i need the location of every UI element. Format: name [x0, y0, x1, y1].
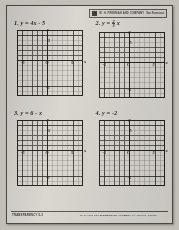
problem-1-x-neg-tick: -5	[21, 60, 25, 65]
problem-1-coordinate-plane: x y O -5 5 5 -5	[13, 27, 88, 105]
footer: TRANSPARENCY 5-3 To be used with ELEMENT…	[7, 211, 172, 220]
problem-4-number: 4.	[96, 109, 101, 116]
problem-3-equation: 3. y = 6 - x	[14, 109, 89, 116]
problem-3-number: 3.	[14, 109, 19, 116]
problem-2-x-neg-tick: -5	[103, 62, 107, 67]
problem-2: 2. y = 2 3 x x y O -5	[93, 19, 171, 107]
problem-3-y-pos-tick: 5	[48, 128, 50, 133]
problem-1-y-neg-tick: -5	[46, 85, 50, 90]
problem-3-equation-text: y = 6 - x	[21, 109, 43, 116]
textbook-credit: To be used with ELEMENTARY ALGEBRA by Ha…	[80, 214, 157, 217]
scanned-page-background: W. H. FREEMAN AND COMPANY San Francisco …	[0, 0, 179, 230]
problem-3-y-axis-label: y	[47, 117, 49, 122]
worksheet-sheet: W. H. FREEMAN AND COMPANY San Francisco …	[6, 5, 173, 224]
problem-1-x-axis-label: x	[84, 59, 86, 64]
problem-3-y-neg-tick: -5	[46, 175, 50, 180]
problem-2-number: 2.	[96, 19, 101, 26]
problem-2-equation: 2. y = 2 3 x	[96, 19, 171, 28]
problem-1-number: 1.	[14, 19, 19, 26]
problem-2-y-neg-tick: -5	[128, 87, 132, 92]
textbook-author: by Harold R. Jacobs	[131, 214, 156, 217]
problem-4-origin-label: O	[127, 150, 130, 155]
problem-1: 1. y = 4x - 5 x y O -5 5 5 -5	[11, 19, 89, 107]
problem-2-x-pos-tick: 5	[153, 62, 155, 67]
textbook-credit-prefix: To be used with	[80, 214, 100, 217]
problem-1-origin-label: O	[46, 60, 49, 65]
problem-4-x-axis-label: x	[166, 148, 168, 153]
problem-4-x-pos-tick: 5	[153, 150, 155, 155]
problem-1-y-pos-tick: 5	[48, 38, 50, 43]
problem-3-origin-label: O	[46, 150, 49, 155]
problem-3-x-neg-tick: -5	[21, 150, 25, 155]
publisher-logo-icon	[92, 11, 97, 16]
problem-4-y-axis-label: y	[129, 117, 131, 122]
problem-4-y-neg-tick: -5	[128, 175, 132, 180]
problem-3-x-pos-tick: 5	[71, 150, 73, 155]
problem-2-y-axis-label: y	[129, 29, 131, 34]
problem-4-coordinate-plane: x y O -5 5 5 -5	[95, 117, 170, 195]
problem-3-coordinate-plane: x y O -5 5 5 -5	[13, 117, 88, 195]
publisher-credit-box: W. H. FREEMAN AND COMPANY San Francisco	[89, 9, 167, 18]
problem-4-equation-text: y = -2	[102, 109, 117, 116]
problem-3-x-axis-label: x	[84, 148, 86, 153]
problem-4-y-pos-tick: 5	[130, 128, 132, 133]
problem-grid: 1. y = 4x - 5 x y O -5 5 5 -5	[11, 19, 170, 195]
footer-divider	[11, 211, 168, 212]
problem-2-origin-label: O	[127, 62, 130, 67]
publisher-credit-line-2: San Francisco	[146, 12, 164, 15]
publisher-credit-line-1: W. H. FREEMAN AND COMPANY	[99, 12, 144, 15]
problem-1-x-pos-tick: 5	[71, 60, 73, 65]
problem-2-equals: =	[107, 19, 111, 26]
problem-2-rhs: x	[117, 19, 120, 26]
problem-1-equation: 1. y = 4x - 5	[14, 19, 89, 26]
problem-2-fraction-denominator: 3	[112, 24, 115, 28]
problem-2-y-pos-tick: 5	[130, 40, 132, 45]
problem-4-equation: 4. y = -2	[96, 109, 171, 116]
problem-4-x-neg-tick: -5	[103, 150, 107, 155]
problem-2-x-axis-label: x	[166, 60, 168, 65]
problem-3: 3. y = 6 - x x y O -5 5 5 -5	[11, 109, 89, 195]
textbook-title: ELEMENTARY ALGEBRA	[100, 214, 132, 217]
problem-2-lhs: y	[102, 19, 105, 26]
problem-2-fraction: 2 3	[112, 19, 115, 27]
problem-1-y-axis-label: y	[47, 27, 49, 32]
problem-1-equation-text: y = 4x - 5	[21, 19, 46, 26]
problem-2-coordinate-plane: x y O -5 5 5 -5	[95, 29, 170, 107]
transparency-number: TRANSPARENCY 5-3	[12, 213, 43, 217]
problem-4: 4. y = -2 x y O -5 5 5 -5	[93, 109, 171, 195]
